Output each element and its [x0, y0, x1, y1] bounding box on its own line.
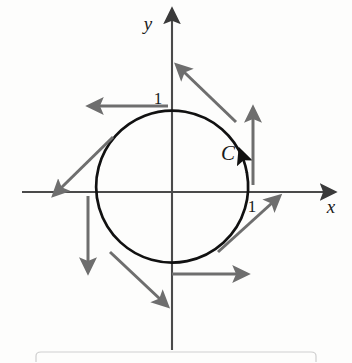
x-axis-label: x	[326, 196, 336, 217]
tick-x-one: 1	[248, 197, 257, 216]
figure-svg: y x 1 1 C	[0, 0, 352, 363]
y-axis-label: y	[142, 13, 153, 34]
vector-field-group	[61, 72, 272, 299]
figure-container: y x 1 1 C	[0, 0, 352, 363]
vector-135deg	[61, 137, 113, 188]
axes-group	[22, 20, 324, 350]
curve-label-c: C	[221, 141, 236, 165]
caption-box	[36, 352, 316, 362]
circle-orientation-arrow	[243, 160, 247, 173]
